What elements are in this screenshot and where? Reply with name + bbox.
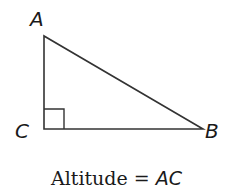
caption: Altitude = AC	[0, 167, 233, 189]
triangle-diagram: A C B	[0, 0, 233, 192]
vertex-label-b: B	[205, 119, 219, 143]
vertex-label-a: A	[28, 7, 44, 31]
vertex-label-c: C	[15, 119, 29, 143]
triangle-abc	[44, 36, 203, 129]
caption-segment: AC	[156, 167, 182, 189]
caption-prefix: Altitude =	[51, 167, 156, 189]
right-angle-marker	[44, 109, 64, 129]
